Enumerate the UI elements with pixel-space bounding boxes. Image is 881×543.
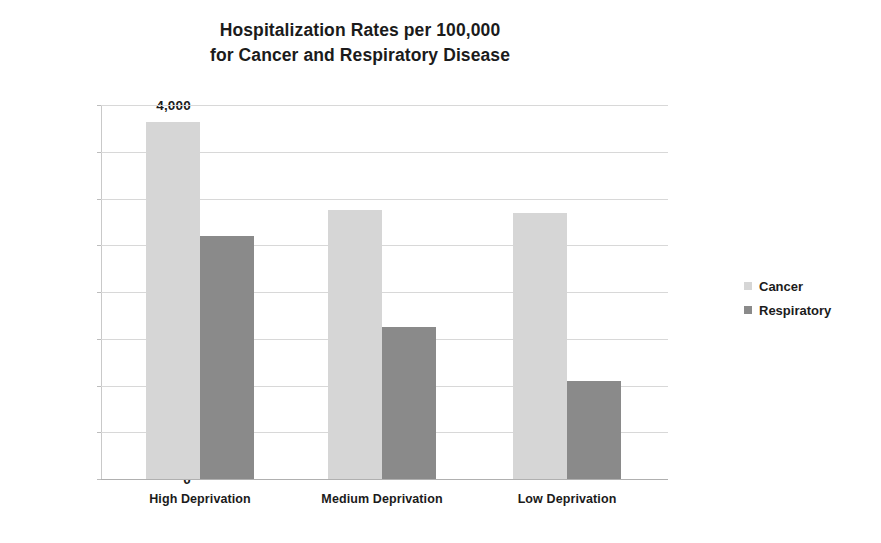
x-axis-label-medium: Medium Deprivation <box>321 492 442 506</box>
chart-title-line-2: for Cancer and Respiratory Disease <box>0 43 720 68</box>
y-axis-tick <box>97 152 101 153</box>
legend-label: Cancer <box>759 279 803 294</box>
bar-cancer-high[interactable] <box>146 122 200 479</box>
bar-respiratory-medium[interactable] <box>382 327 436 479</box>
y-axis-tick <box>97 479 101 480</box>
gridline <box>101 479 668 480</box>
chart-title-line-1: Hospitalization Rates per 100,000 <box>0 18 720 43</box>
bar-respiratory-high[interactable] <box>200 236 254 479</box>
y-axis-tick <box>97 292 101 293</box>
bar-respiratory-low[interactable] <box>567 381 621 479</box>
chart-title: Hospitalization Rates per 100,000 for Ca… <box>0 18 720 68</box>
y-axis-tick <box>97 339 101 340</box>
legend-item-cancer[interactable]: Cancer <box>744 274 831 298</box>
chart-legend: CancerRespiratory <box>744 274 831 322</box>
gridline <box>101 105 668 106</box>
bar-cancer-medium[interactable] <box>328 210 382 479</box>
x-axis-label-high: High Deprivation <box>149 492 251 506</box>
y-axis-tick <box>97 245 101 246</box>
chart-page: Hospitalization Rates per 100,000 for Ca… <box>0 0 881 543</box>
legend-swatch-icon <box>744 306 752 314</box>
y-axis-tick <box>97 199 101 200</box>
x-axis-label-low: Low Deprivation <box>518 492 617 506</box>
legend-label: Respiratory <box>759 303 831 318</box>
y-axis-tick <box>97 432 101 433</box>
legend-swatch-icon <box>744 282 752 290</box>
y-axis-tick <box>97 386 101 387</box>
plot-area <box>101 105 668 479</box>
legend-item-respiratory[interactable]: Respiratory <box>744 298 831 322</box>
y-axis-tick <box>97 105 101 106</box>
bar-cancer-low[interactable] <box>513 213 567 479</box>
